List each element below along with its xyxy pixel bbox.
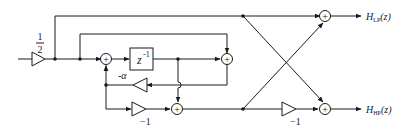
- neg-one-gain-triangle: [132, 102, 146, 116]
- cross-wire-down: [243, 16, 323, 102]
- adder-2: +: [172, 104, 183, 115]
- lp-adder: +: [320, 11, 331, 22]
- delay-label: z: [136, 53, 142, 67]
- feedback-wire: [147, 65, 227, 86]
- svg-text:+: +: [103, 54, 109, 65]
- alpha-gain-triangle: [133, 78, 147, 92]
- adder-3: +: [222, 54, 233, 65]
- input-stage: 1 2: [18, 31, 101, 66]
- block-diagram: 1 2 + z -1 + -α −1 +: [0, 0, 409, 130]
- svg-text:+: +: [322, 104, 328, 115]
- hp-output-label: HHP(z): [365, 104, 392, 116]
- delay-block: z -1: [130, 48, 153, 70]
- hp-adder: +: [320, 104, 331, 115]
- half-gain-denominator: 2: [38, 44, 43, 55]
- lower-branch-wire: [106, 85, 131, 109]
- delay-exponent: -1: [143, 50, 150, 59]
- lp-output-label: HLP(z): [365, 11, 391, 23]
- delay-tap-to-adder2-wire: [178, 59, 181, 102]
- cross-wire-up: [243, 23, 323, 109]
- adder-1: +: [101, 54, 112, 65]
- half-gain-numerator: 1: [38, 31, 43, 42]
- svg-text:+: +: [174, 104, 180, 115]
- neg-one-gain-label: −1: [140, 116, 151, 127]
- svg-text:+: +: [224, 54, 230, 65]
- alpha-gain-label: -α: [118, 70, 127, 81]
- output-neg-one-label: −1: [290, 116, 301, 127]
- svg-text:+: +: [322, 11, 328, 22]
- output-neg-one-triangle: [282, 102, 296, 116]
